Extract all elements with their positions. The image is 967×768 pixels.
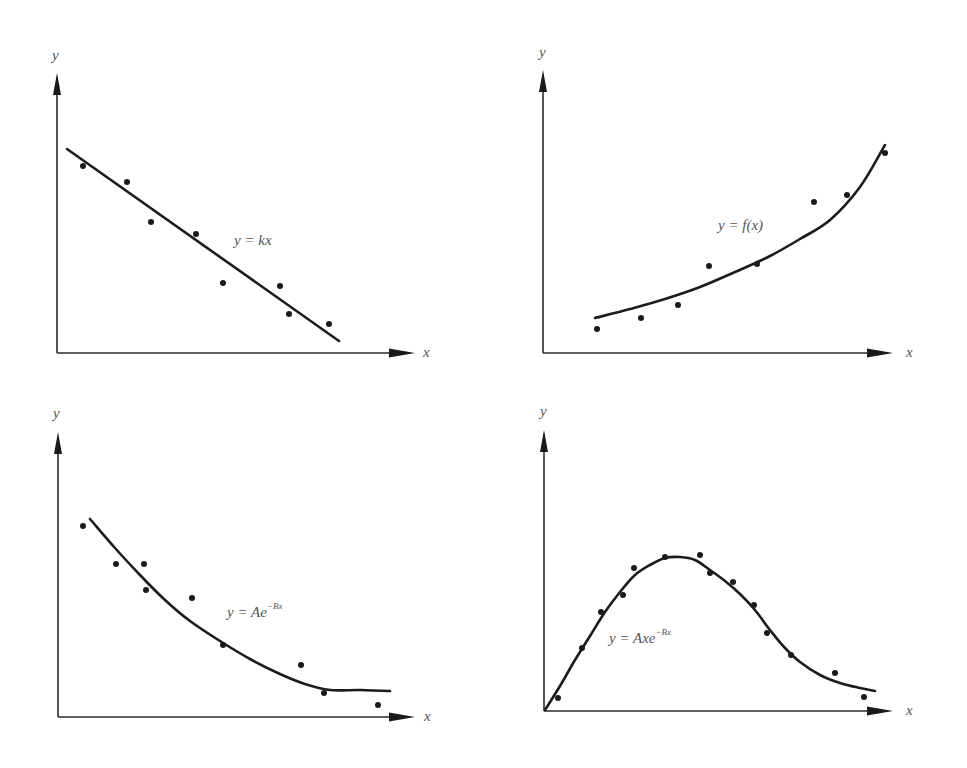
data-point [375,702,381,708]
data-point [80,523,86,529]
data-point [631,565,637,571]
data-point [326,321,332,327]
data-point [620,592,626,598]
fit-formula-label: y = Axe−Bx [607,627,671,646]
data-point [707,570,713,576]
data-point [844,192,850,198]
x-axis-label: x [905,702,913,718]
x-axis-arrow-icon [389,349,415,358]
data-point [594,326,600,332]
data-point [751,602,757,608]
data-point [124,179,130,185]
fit-formula-label: y = f(x) [716,217,763,234]
data-point [706,263,712,269]
data-point [189,595,195,601]
x-axis-label: x [905,344,913,360]
formula-exponent: −Bx [656,627,672,637]
fit-formula-label: y = kx [232,232,272,248]
data-point [764,630,770,636]
y-axis-label: y [537,44,546,60]
data-point [321,690,327,696]
data-point [662,554,668,560]
formula-exponent: −Bx [267,601,283,611]
data-point [220,280,226,286]
data-point [220,642,226,648]
data-point [638,315,644,321]
fit-curve [67,149,339,341]
x-axis-label: x [422,344,430,360]
y-axis-label: y [51,405,60,421]
fit-formula-label: y = Ae−Bx [225,601,282,620]
data-point [811,199,817,205]
panel-general-fit: yxy = f(x) [537,44,913,360]
data-point [861,694,867,700]
y-axis-arrow-icon [540,430,548,452]
data-point [598,609,604,615]
data-point [730,579,736,585]
y-axis-arrow-icon [54,432,62,454]
data-point [286,311,292,317]
data-point [193,231,199,237]
data-point [882,150,888,156]
data-point [143,587,149,593]
data-point [675,302,681,308]
data-point [832,670,838,676]
data-point [754,261,760,267]
data-point [555,695,561,701]
y-axis-arrow-icon [539,70,547,92]
data-point [697,552,703,558]
data-point [113,561,119,567]
y-axis-label: y [50,47,59,63]
panel-exp-decay-fit: yxy = Ae−Bx [51,405,431,724]
panel-linear-fit: yxy = kx [50,47,430,360]
y-axis-arrow-icon [53,73,61,95]
data-point [579,645,585,651]
data-point [141,561,147,567]
y-axis-label: y [538,403,547,419]
data-point [80,163,86,169]
panel-x-exp-decay-fit: yxy = Axe−Bx [538,403,913,718]
fit-curve [545,557,875,710]
figure-canvas: yxy = kx yxy = f(x) yxy = Ae−Bx yxy = Ax… [0,0,967,768]
data-point [788,652,794,658]
data-point [298,662,304,668]
data-point [148,219,154,225]
x-axis-arrow-icon [389,713,415,722]
data-point [277,283,283,289]
x-axis-arrow-icon [867,707,893,716]
x-axis-label: x [423,708,431,724]
x-axis-arrow-icon [867,349,893,358]
